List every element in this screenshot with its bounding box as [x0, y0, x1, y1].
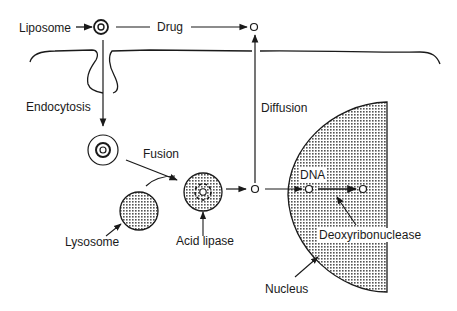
lysosome-icon — [120, 192, 158, 230]
liposome-icon — [94, 20, 108, 34]
label-diffusion: Diffusion — [261, 101, 307, 115]
dna-released-drug-icon — [360, 186, 367, 193]
fusion-arrow — [126, 160, 177, 180]
label-acid-lipase: Acid lipase — [176, 234, 234, 248]
cell-membrane — [30, 50, 103, 93]
cell-membrane-far — [260, 51, 440, 64]
label-fusion: Fusion — [143, 147, 179, 161]
endosome-icon — [88, 135, 118, 165]
label-nucleus: Nucleus — [265, 282, 308, 296]
label-endocytosis: Endocytosis — [26, 100, 91, 114]
label-liposome: Liposome — [19, 21, 71, 35]
nucleus-pointer — [295, 257, 318, 277]
released-drug-icon — [252, 186, 259, 193]
cell-membrane-right — [110, 50, 252, 93]
label-lysosome: Lysosome — [65, 235, 119, 249]
label-dna: DNA — [299, 168, 326, 182]
liposome-drug-delivery-diagram: Liposome Drug Endocytosis Fusion Diffusi… — [0, 0, 457, 311]
diagram-canvas — [0, 0, 457, 311]
dna-bound-drug-icon — [306, 186, 313, 193]
label-drug: Drug — [157, 20, 183, 34]
free-drug-icon — [251, 24, 258, 31]
label-deoxyribonuclease: Deoxyribonuclease — [318, 228, 422, 242]
